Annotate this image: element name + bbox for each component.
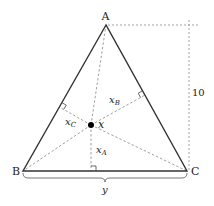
base-brace bbox=[23, 173, 187, 182]
vertex-label-A: A bbox=[101, 10, 111, 23]
point-x bbox=[88, 122, 94, 128]
vertex-label-B: B bbox=[12, 165, 20, 178]
distance-label-xB: xB bbox=[109, 94, 120, 107]
distance-label-xA: xA bbox=[96, 144, 107, 157]
line-x-to-C bbox=[91, 125, 187, 171]
distance-label-xC: xC bbox=[65, 116, 77, 129]
right-angle-AC bbox=[138, 91, 142, 98]
right-angle-BC bbox=[91, 166, 96, 171]
line-x-to-B bbox=[23, 125, 91, 171]
triangle-diagram: A B C x xB xC xA 10 y bbox=[0, 0, 214, 206]
base-label-y: y bbox=[101, 184, 108, 195]
point-label-x: x bbox=[98, 118, 105, 131]
height-label: 10 bbox=[192, 87, 205, 98]
line-x-to-A bbox=[91, 25, 106, 125]
vertex-label-C: C bbox=[191, 165, 199, 178]
